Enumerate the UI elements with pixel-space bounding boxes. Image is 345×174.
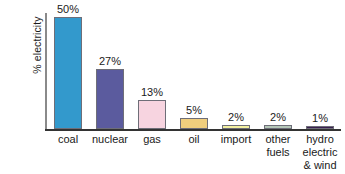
bar: [138, 100, 166, 129]
bar-value-label: 50%: [57, 3, 79, 16]
bar-group-hydro-electric-&-wind: 1%: [306, 13, 334, 129]
category-label: other fuels: [257, 133, 299, 159]
x-axis-category-labels: coalnucleargasoilimportother fuelshydro …: [47, 133, 341, 174]
bar: [54, 17, 82, 129]
bar-value-label: 2%: [228, 111, 244, 124]
category-label: oil: [173, 133, 215, 146]
bar-group-other-fuels: 2%: [264, 13, 292, 129]
bar: [306, 126, 334, 129]
bar-group-import: 2%: [222, 13, 250, 129]
bar: [96, 69, 124, 129]
bar-chart: % electricity in UK 50%27%13%5%2%2%1% co…: [0, 0, 345, 174]
bar-group-coal: 50%: [54, 13, 82, 129]
category-label: coal: [47, 133, 89, 146]
x-axis-line: [45, 129, 341, 131]
bar: [180, 118, 208, 129]
bar-group-gas: 13%: [138, 13, 166, 129]
bar-value-label: 2%: [270, 111, 286, 124]
category-label: hydro electric & wind: [299, 133, 341, 172]
bar-group-oil: 5%: [180, 13, 208, 129]
bar-value-label: 1%: [312, 112, 328, 125]
plot-area: 50%27%13%5%2%2%1%: [47, 13, 341, 129]
category-label: import: [215, 133, 257, 146]
category-label: gas: [131, 133, 173, 146]
category-label: nuclear: [89, 133, 131, 146]
bar: [264, 125, 292, 129]
bar-value-label: 13%: [141, 86, 163, 99]
bar-value-label: 27%: [99, 55, 121, 68]
bar: [222, 125, 250, 129]
y-axis-label-line-1: % electricity: [31, 0, 43, 91]
bar-value-label: 5%: [186, 104, 202, 117]
y-axis-label: % electricity in UK: [7, 0, 41, 91]
bar-group-nuclear: 27%: [96, 13, 124, 129]
